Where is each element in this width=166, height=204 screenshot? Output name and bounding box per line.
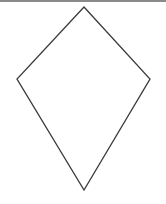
diagram-canvas — [0, 0, 166, 204]
kite-shape — [17, 7, 150, 190]
